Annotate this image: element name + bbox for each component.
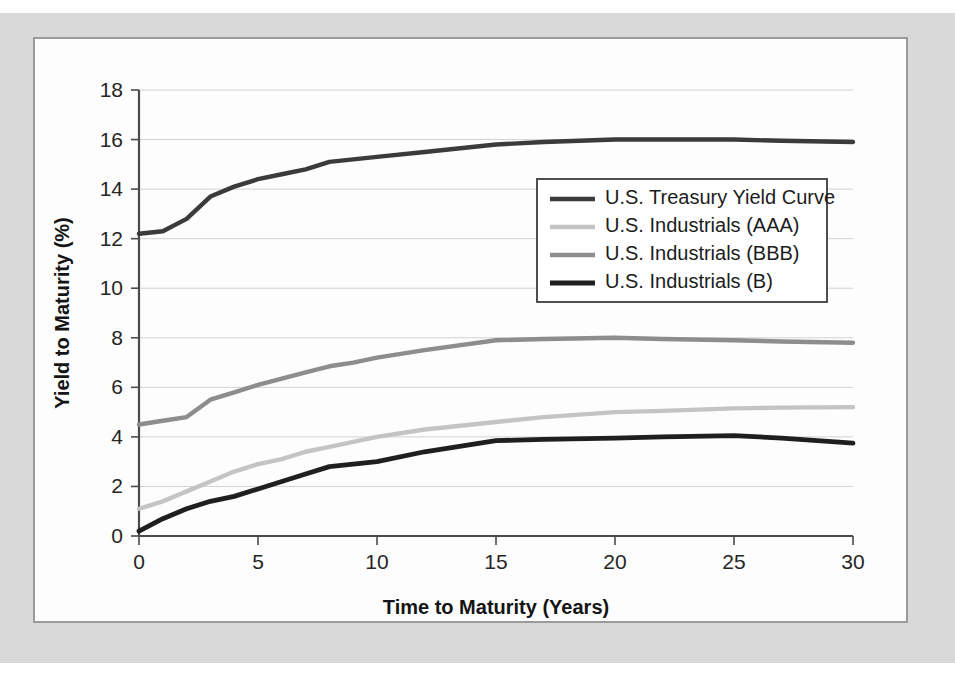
series-line-3 (139, 436, 853, 531)
y-tick-label-4: 4 (111, 425, 123, 448)
y-axis-title: Yield to Maturity (%) (51, 217, 73, 408)
y-tick-label-12: 12 (100, 227, 123, 250)
series-line-2 (139, 338, 853, 425)
y-tick-label-18: 18 (100, 78, 123, 101)
legend-label-0: U.S. Treasury Yield Curve (605, 186, 835, 208)
y-tick-label-8: 8 (111, 326, 123, 349)
y-tick-label-2: 2 (111, 474, 123, 497)
y-axis-ticks: 024681012141618 (100, 78, 139, 547)
x-tick-label-15: 15 (484, 550, 507, 573)
yield-curve-chart: 024681012141618 051015202530 U.S. Treasu… (35, 39, 906, 621)
x-tick-label-5: 5 (252, 550, 264, 573)
legend-label-1: U.S. Industrials (AAA) (605, 214, 800, 236)
x-tick-label-0: 0 (133, 550, 145, 573)
x-tick-label-10: 10 (365, 550, 388, 573)
x-tick-label-20: 20 (603, 550, 626, 573)
figure-root: 024681012141618 051015202530 U.S. Treasu… (0, 0, 955, 676)
y-tick-label-0: 0 (111, 524, 123, 547)
chart-panel: 024681012141618 051015202530 U.S. Treasu… (33, 37, 908, 623)
chart-legend: U.S. Treasury Yield CurveU.S. Industrial… (537, 179, 835, 302)
x-axis-title: Time to Maturity (Years) (383, 596, 609, 618)
legend-label-2: U.S. Industrials (BBB) (605, 242, 800, 264)
y-tick-label-6: 6 (111, 375, 123, 398)
x-tick-label-25: 25 (722, 550, 745, 573)
x-tick-label-30: 30 (841, 550, 864, 573)
y-tick-label-14: 14 (100, 177, 124, 200)
y-tick-label-16: 16 (100, 128, 123, 151)
x-axis-ticks: 051015202530 (133, 536, 865, 573)
y-tick-label-10: 10 (100, 276, 123, 299)
legend-label-3: U.S. Industrials (B) (605, 270, 773, 292)
